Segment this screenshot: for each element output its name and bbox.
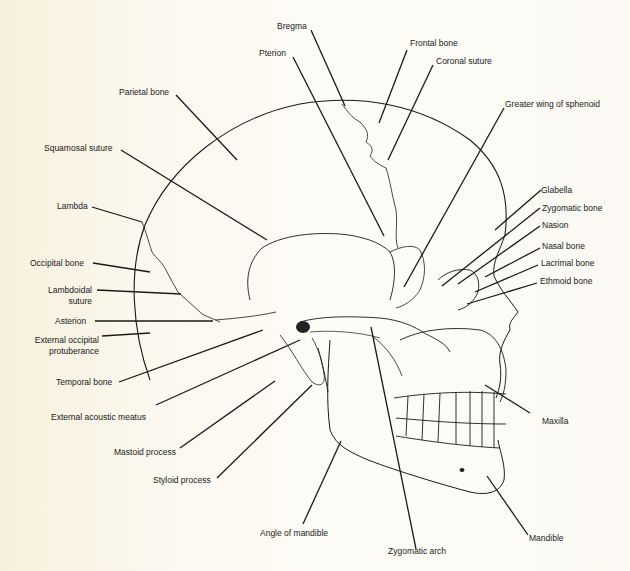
mandible [328, 340, 505, 494]
label-lambda: Lambda [57, 201, 88, 211]
label-mandible: Mandible [529, 533, 564, 543]
leader-lines [92, 30, 541, 549]
label-frontal-bone: Frontal bone [410, 38, 458, 48]
label-external-occipital-protuberance-line1: External occipital [20, 335, 99, 345]
label-lambdoidal-suture-line1: Lambdoidal [30, 285, 92, 295]
label-styloid-process: Styloid process [153, 475, 211, 485]
label-temporal-bone: Temporal bone [56, 377, 112, 387]
label-glabella: Glabella [541, 185, 572, 195]
label-parietal-bone: Parietal bone [119, 87, 169, 97]
skull-diagram: Bregma Pterion Frontal bone Coronal sutu… [0, 0, 630, 571]
maxilla [400, 328, 506, 402]
label-coronal-suture: Coronal suture [436, 56, 492, 66]
label-angle-of-mandible: Angle of mandible [260, 528, 328, 538]
label-nasal-bone: Nasal bone [542, 241, 585, 251]
label-lacrimal-bone: Lacrimal bone [541, 258, 594, 268]
label-external-occipital-protuberance-line2: protuberance [20, 346, 99, 356]
label-occipital-bone: Occipital bone [30, 258, 84, 268]
skull-drawing [0, 0, 630, 571]
temporal-squama [248, 234, 395, 300]
teeth [394, 391, 506, 448]
mastoid-process [280, 335, 324, 385]
label-squamosal-suture: Squamosal suture [44, 143, 113, 153]
label-external-acoustic-meatus: External acoustic meatus [51, 412, 146, 422]
label-lambdoidal-suture-line2: suture [30, 296, 92, 306]
label-maxilla: Maxilla [542, 416, 568, 426]
label-bregma: Bregma [277, 21, 307, 31]
label-mastoid-process: Mastoid process [114, 447, 176, 457]
label-asterion: Asterion [55, 316, 86, 326]
lambdoid-suture [142, 222, 220, 322]
label-pterion: Pterion [259, 48, 286, 58]
cranium-outline [134, 100, 506, 380]
label-zygomatic-bone: Zygomatic bone [542, 203, 602, 213]
label-nasion: Nasion [542, 220, 568, 230]
label-zygomatic-arch: Zygomatic arch [388, 546, 446, 556]
label-greater-wing-of-sphenoid: Greater wing of sphenoid [505, 99, 600, 109]
orbit [438, 269, 479, 310]
coronal-suture [342, 104, 398, 248]
label-ethmoid-bone: Ethmoid bone [540, 276, 592, 286]
